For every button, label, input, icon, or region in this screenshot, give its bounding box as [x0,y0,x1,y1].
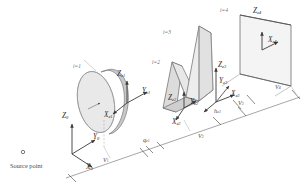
axis-label-xe4: Xe4 [268,37,277,44]
axis-label-ze1: Ze1 [117,71,125,78]
element-i3-tall-prism [186,26,213,101]
dimension-label-v1: V1 [103,157,109,164]
element-index-i4: i=4 [220,8,228,13]
element-index-i2: i=2 [152,60,160,65]
dimension-label-v3: V3 [238,100,244,107]
axis-label-ye2: Ye2 [190,99,198,106]
axis-label-ze4: Ze4 [253,8,261,15]
axis-label-xe3: Xe3 [231,91,240,98]
dimension-label-v2: V2 [198,133,204,140]
axis-label-ze3: Ze3 [218,62,226,69]
dimension-label-v4: V4 [275,84,281,91]
axis-label-ye3: Ye3 [219,78,227,85]
axis-label-ze2: Ze2 [168,95,176,102]
axis-label-ye1: Ye1 [142,88,150,95]
element-index-i3: i=3 [163,30,171,35]
dimension-label-he3: he3 [214,108,221,115]
element-index-i1: i=1 [73,64,81,69]
axis-label-xe1: Xe1 [104,112,113,119]
element-i1-axes-triad [113,81,147,114]
axis-label-x0: X0 [86,164,93,171]
global-axes-triad [72,124,95,167]
source-point-caption: Source point [10,163,42,169]
diagram-vector-layer [0,0,305,194]
dimension-label-qe1: qe1 [143,137,150,144]
source-point-marker [21,150,24,153]
axis-label-y0: Y0 [93,134,99,141]
axis-label-z0: Z0 [62,113,68,120]
axis-label-xe2: Xe2 [172,119,181,126]
figure-canvas: Z0 Y0 X0 Source point i=1 Ze1 Ye1 Xe1 i=… [0,0,305,194]
